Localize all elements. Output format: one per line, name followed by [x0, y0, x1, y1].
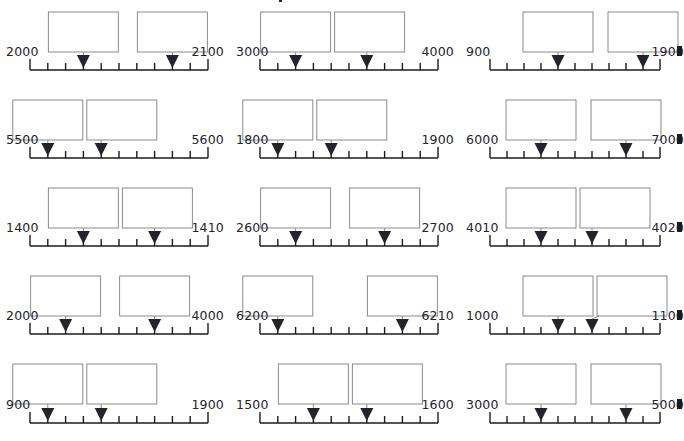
- answer-box[interactable]: [580, 188, 650, 228]
- number-line-end-label: 2100: [191, 44, 224, 59]
- pointer-arrow: [166, 55, 179, 68]
- right-edge-clipped-mark: [677, 399, 682, 409]
- number-line-end-label: 1900: [191, 397, 224, 412]
- answer-box[interactable]: [352, 364, 422, 404]
- number-line-start-label: 1400: [6, 220, 39, 235]
- number-line-cell: 9001900: [0, 352, 230, 441]
- pointer-arrow: [307, 408, 320, 421]
- pointer-arrow: [95, 408, 108, 421]
- pointer-arrow: [360, 55, 373, 68]
- number-line-end-label: 5600: [191, 132, 224, 147]
- answer-box[interactable]: [350, 188, 420, 228]
- pointer-arrow: [59, 319, 72, 332]
- answer-box[interactable]: [506, 100, 576, 140]
- number-line-start-label: 2600: [236, 220, 269, 235]
- number-line-start-label: 5500: [6, 132, 39, 147]
- pointer-arrow: [637, 55, 650, 68]
- answer-box[interactable]: [48, 188, 118, 228]
- right-edge-clipped-mark: [677, 134, 682, 144]
- answer-box[interactable]: [523, 276, 593, 316]
- pointer-arrow: [325, 143, 338, 156]
- answer-box[interactable]: [317, 100, 387, 140]
- number-line-cell: 20004000: [0, 264, 230, 352]
- pointer-arrow: [360, 408, 373, 421]
- answer-box[interactable]: [261, 188, 331, 228]
- pointer-arrow: [586, 231, 599, 244]
- number-line-end-label: 1900: [421, 132, 454, 147]
- answer-box[interactable]: [120, 276, 190, 316]
- right-edge-clipped-mark: [677, 46, 682, 56]
- number-line-cell: 62006210: [230, 264, 460, 352]
- pointer-arrow: [148, 319, 161, 332]
- number-line-end-label: 1600: [421, 397, 454, 412]
- pointer-arrow: [95, 143, 108, 156]
- cropped-title-remnant: [279, 0, 282, 2]
- number-line-cell: 10001100: [460, 264, 682, 352]
- pointer-arrow: [41, 143, 54, 156]
- answer-box[interactable]: [506, 364, 576, 404]
- number-line-cell: 60007000: [460, 88, 682, 176]
- number-line-cell: 14001410: [0, 176, 230, 264]
- answer-box[interactable]: [48, 12, 118, 52]
- number-line-start-label: 2000: [6, 308, 39, 323]
- pointer-arrow: [271, 143, 284, 156]
- answer-box[interactable]: [87, 100, 157, 140]
- answer-box[interactable]: [87, 364, 157, 404]
- number-line-cell: 30004000: [230, 0, 460, 88]
- right-edge-clipped-mark: [677, 310, 682, 320]
- number-line-end-label: 4000: [421, 44, 454, 59]
- answer-box[interactable]: [335, 12, 405, 52]
- number-line-end-label: 1410: [191, 220, 224, 235]
- number-line-start-label: 4010: [466, 220, 499, 235]
- number-line-cell: 30005000: [460, 352, 682, 441]
- pointer-arrow: [396, 319, 409, 332]
- answer-box[interactable]: [523, 12, 593, 52]
- pointer-arrow: [535, 408, 548, 421]
- number-line-cell: 40104020: [460, 176, 682, 264]
- answer-box[interactable]: [261, 12, 331, 52]
- number-line-cell: 26002700: [230, 176, 460, 264]
- number-line-end-label: 4000: [191, 308, 224, 323]
- number-line-cell: 9001900: [460, 0, 682, 88]
- number-line-end-label: 6210: [421, 308, 454, 323]
- answer-box[interactable]: [122, 188, 192, 228]
- number-line-start-label: 900: [466, 44, 490, 59]
- number-line-cell: 55005600: [0, 88, 230, 176]
- number-line-cell: 15001600: [230, 352, 460, 441]
- number-line-start-label: 6000: [466, 132, 499, 147]
- pointer-arrow: [41, 408, 54, 421]
- answer-box[interactable]: [31, 276, 101, 316]
- pointer-arrow: [77, 231, 90, 244]
- right-edge-clipped-mark: [677, 222, 682, 232]
- pointer-arrow: [552, 319, 565, 332]
- answer-box[interactable]: [506, 188, 576, 228]
- pointer-arrow: [535, 231, 548, 244]
- number-line-start-label: 2000: [6, 44, 39, 59]
- pointer-arrow: [586, 319, 599, 332]
- number-line-start-label: 3000: [236, 44, 269, 59]
- pointer-arrow: [289, 231, 302, 244]
- pointer-arrow: [620, 143, 633, 156]
- number-line-end-label: 2700: [421, 220, 454, 235]
- number-line-start-label: 6200: [236, 308, 269, 323]
- pointer-arrow: [535, 143, 548, 156]
- number-line-start-label: 900: [6, 397, 30, 412]
- pointer-arrow: [148, 231, 161, 244]
- pointer-arrow: [620, 408, 633, 421]
- number-line-cell: 18001900: [230, 88, 460, 176]
- number-line-start-label: 1500: [236, 397, 269, 412]
- number-line-start-label: 3000: [466, 397, 499, 412]
- pointer-arrow: [289, 55, 302, 68]
- number-line-cell: 20002100: [0, 0, 230, 88]
- pointer-arrow: [552, 55, 565, 68]
- number-line: [460, 0, 682, 88]
- number-line-start-label: 1800: [236, 132, 269, 147]
- pointer-arrow: [77, 55, 90, 68]
- number-line-start-label: 1000: [466, 308, 499, 323]
- pointer-arrow: [378, 231, 391, 244]
- answer-box[interactable]: [278, 364, 348, 404]
- pointer-arrow: [271, 319, 284, 332]
